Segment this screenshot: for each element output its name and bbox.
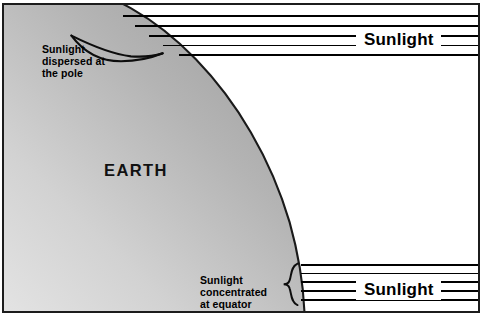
equator-annotation-label: Sunlight concentrated at equator [200, 275, 294, 311]
diagram-figure: Sunlight dispersed at the pole EARTH Sun… [0, 0, 484, 331]
diagram-frame: Sunlight dispersed at the pole EARTH Sun… [2, 3, 480, 313]
sunlight-label-bottom: Sunlight [356, 280, 441, 300]
pole-annotation-label: Sunlight dispersed at the pole [42, 44, 130, 80]
earth-label: EARTH [104, 161, 168, 180]
sunlight-label-top: Sunlight [356, 30, 441, 50]
